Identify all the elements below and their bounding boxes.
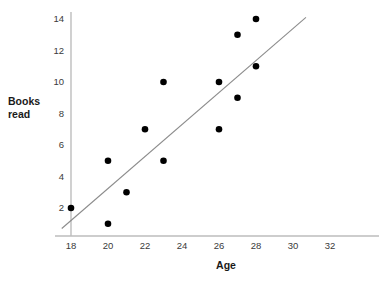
- scatter-point: [142, 126, 149, 133]
- x-tick-label: 22: [140, 240, 151, 251]
- x-tick-label: 24: [177, 240, 188, 251]
- y-axis-title-line1: Books: [8, 95, 40, 107]
- scatter-chart-figure: 2468101214 1820222426283032 Books read A…: [0, 0, 385, 282]
- scatter-point: [105, 220, 112, 227]
- scatter-point: [160, 79, 167, 86]
- x-tick-label: 18: [66, 240, 77, 251]
- scatter-point: [253, 63, 260, 70]
- x-tick-label: 26: [214, 240, 225, 251]
- scatter-point: [68, 205, 75, 212]
- scatter-point: [216, 126, 223, 133]
- y-tick-label: 2: [59, 202, 64, 213]
- scatter-point: [234, 31, 241, 38]
- y-tick-label: 10: [53, 76, 64, 87]
- x-axis-title: Age: [216, 259, 236, 271]
- scatter-point: [216, 79, 223, 86]
- y-tick-label: 4: [59, 171, 64, 182]
- scatter-point: [234, 94, 241, 101]
- y-tick-label: 8: [59, 108, 64, 119]
- scatter-point: [123, 189, 130, 196]
- chart-canvas: 2468101214 1820222426283032 Books read A…: [0, 0, 385, 282]
- y-tick-label: 14: [53, 13, 64, 24]
- x-tick-label: 30: [288, 240, 299, 251]
- y-tick-label: 6: [59, 139, 64, 150]
- y-axis-title-line2: read: [8, 108, 30, 120]
- x-tick-label: 28: [251, 240, 262, 251]
- scatter-point: [160, 157, 167, 164]
- scatter-point: [105, 157, 112, 164]
- scatter-point: [253, 16, 260, 23]
- x-tick-label: 20: [103, 240, 114, 251]
- x-tick-label: 32: [325, 240, 336, 251]
- y-tick-label: 12: [53, 45, 64, 56]
